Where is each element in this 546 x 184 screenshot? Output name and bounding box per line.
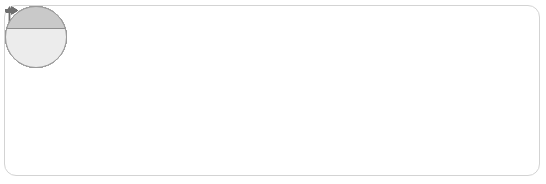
arrow-type5-to-type6 <box>5 6 18 15</box>
diagram-frame <box>4 5 540 176</box>
node-type-6 <box>5 6 67 68</box>
node-type-6-body <box>6 28 66 67</box>
